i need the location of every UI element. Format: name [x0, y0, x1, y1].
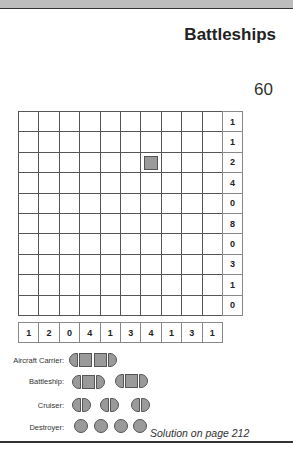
grid-cell[interactable]	[161, 275, 181, 295]
grid-cell[interactable]	[39, 275, 59, 295]
grid-cell[interactable]	[39, 173, 59, 193]
grid-cell[interactable]	[161, 234, 181, 254]
grid-cell[interactable]	[161, 193, 181, 213]
grid-cell[interactable]	[120, 112, 140, 132]
grid-cell[interactable]	[202, 173, 222, 193]
grid-cell[interactable]	[59, 173, 79, 193]
grid-cell[interactable]	[141, 254, 161, 274]
grid-cell[interactable]	[141, 213, 161, 233]
grid-cell[interactable]	[80, 152, 100, 172]
grid-cell[interactable]	[100, 193, 120, 213]
grid-cell[interactable]	[80, 173, 100, 193]
grid-cell[interactable]	[161, 295, 181, 315]
grid-cell[interactable]	[120, 295, 140, 315]
grid-cell[interactable]	[161, 254, 181, 274]
grid-cell[interactable]	[161, 152, 181, 172]
grid-cell[interactable]	[100, 254, 120, 274]
grid-cell[interactable]	[19, 295, 39, 315]
grid-cell[interactable]	[202, 254, 222, 274]
grid-cell[interactable]	[59, 112, 79, 132]
puzzle-grid[interactable]	[18, 111, 223, 316]
grid-cell[interactable]	[59, 254, 79, 274]
grid-cell[interactable]	[59, 295, 79, 315]
grid-cell[interactable]	[80, 295, 100, 315]
grid-cell[interactable]	[19, 173, 39, 193]
grid-cell[interactable]	[100, 275, 120, 295]
grid-cell[interactable]	[120, 132, 140, 152]
grid-cell[interactable]	[80, 254, 100, 274]
grid-cell[interactable]	[80, 193, 100, 213]
grid-cell[interactable]	[39, 234, 59, 254]
grid-cell[interactable]	[80, 112, 100, 132]
grid-cell[interactable]	[161, 112, 181, 132]
grid-cell[interactable]	[39, 193, 59, 213]
grid-cell[interactable]	[141, 152, 161, 172]
grid-cell[interactable]	[141, 173, 161, 193]
grid-cell[interactable]	[100, 112, 120, 132]
grid-cell[interactable]	[39, 295, 59, 315]
grid-cell[interactable]	[120, 254, 140, 274]
grid-cell[interactable]	[19, 275, 39, 295]
grid-cell[interactable]	[39, 213, 59, 233]
grid-cell[interactable]	[59, 193, 79, 213]
grid-cell[interactable]	[100, 213, 120, 233]
grid-cell[interactable]	[59, 275, 79, 295]
grid-cell[interactable]	[19, 254, 39, 274]
grid-cell[interactable]	[182, 112, 202, 132]
grid-cell[interactable]	[19, 132, 39, 152]
grid-cell[interactable]	[141, 275, 161, 295]
grid-cell[interactable]	[59, 234, 79, 254]
grid-cell[interactable]	[100, 132, 120, 152]
grid-cell[interactable]	[80, 234, 100, 254]
grid-cell[interactable]	[80, 275, 100, 295]
grid-cell[interactable]	[100, 295, 120, 315]
grid-cell[interactable]	[161, 173, 181, 193]
grid-cell[interactable]	[182, 173, 202, 193]
grid-cell[interactable]	[39, 132, 59, 152]
grid-cell[interactable]	[100, 152, 120, 172]
grid-cell[interactable]	[182, 132, 202, 152]
grid-cell[interactable]	[80, 213, 100, 233]
grid-cell[interactable]	[19, 193, 39, 213]
grid-cell[interactable]	[202, 152, 222, 172]
grid-cell[interactable]	[182, 234, 202, 254]
grid-cell[interactable]	[39, 152, 59, 172]
grid-cell[interactable]	[202, 132, 222, 152]
grid-cell[interactable]	[100, 234, 120, 254]
grid-cell[interactable]	[141, 234, 161, 254]
grid-cell[interactable]	[19, 112, 39, 132]
grid-cell[interactable]	[120, 193, 140, 213]
grid-cell[interactable]	[182, 213, 202, 233]
grid-cell[interactable]	[120, 275, 140, 295]
grid-cell[interactable]	[19, 234, 39, 254]
grid-cell[interactable]	[161, 132, 181, 152]
grid-cell[interactable]	[161, 213, 181, 233]
grid-cell[interactable]	[202, 213, 222, 233]
grid-cell[interactable]	[202, 234, 222, 254]
grid-cell[interactable]	[59, 132, 79, 152]
grid-cell[interactable]	[141, 193, 161, 213]
grid-cell[interactable]	[182, 275, 202, 295]
grid-cell[interactable]	[141, 112, 161, 132]
grid-cell[interactable]	[182, 193, 202, 213]
grid-cell[interactable]	[202, 295, 222, 315]
grid-cell[interactable]	[120, 173, 140, 193]
grid-cell[interactable]	[19, 213, 39, 233]
grid-cell[interactable]	[202, 112, 222, 132]
grid-cell[interactable]	[182, 254, 202, 274]
grid-cell[interactable]	[141, 295, 161, 315]
grid-cell[interactable]	[59, 152, 79, 172]
grid-cell[interactable]	[141, 132, 161, 152]
grid-cell[interactable]	[100, 173, 120, 193]
grid-cell[interactable]	[202, 275, 222, 295]
grid-cell[interactable]	[120, 234, 140, 254]
grid-cell[interactable]	[39, 112, 59, 132]
grid-cell[interactable]	[59, 213, 79, 233]
grid-cell[interactable]	[19, 152, 39, 172]
grid-cell[interactable]	[202, 193, 222, 213]
grid-cell[interactable]	[182, 295, 202, 315]
grid-cell[interactable]	[120, 152, 140, 172]
grid-cell[interactable]	[80, 132, 100, 152]
grid-cell[interactable]	[182, 152, 202, 172]
grid-cell[interactable]	[120, 213, 140, 233]
